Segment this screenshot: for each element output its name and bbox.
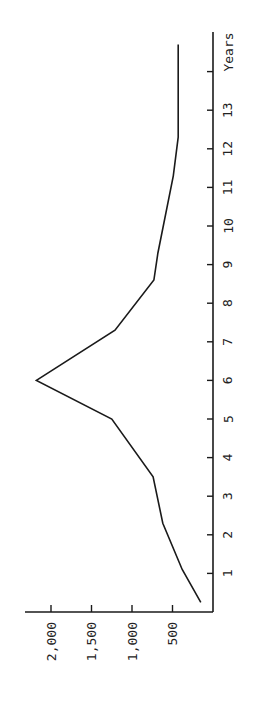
data-line bbox=[36, 45, 200, 603]
x-tick-label: 12 bbox=[221, 141, 236, 157]
y-tick-label: 2,000 bbox=[44, 622, 59, 661]
x-tick-label: 2 bbox=[221, 531, 236, 539]
x-tick-label: 9 bbox=[221, 261, 236, 269]
axis-ticks bbox=[51, 72, 213, 612]
x-tick-label: 4 bbox=[221, 454, 236, 462]
x-tick-label: 8 bbox=[221, 299, 236, 307]
x-tick-label: 3 bbox=[221, 492, 236, 500]
x-axis-label: Years bbox=[221, 32, 236, 71]
x-tick-label: 6 bbox=[221, 376, 236, 384]
x-tick-label: 7 bbox=[221, 338, 236, 346]
y-tick-label: 1,500 bbox=[84, 622, 99, 661]
rotated-line-chart: 123456789101112135001,0001,5002,000 Year… bbox=[0, 0, 265, 708]
x-tick-label: 11 bbox=[221, 180, 236, 196]
x-tick-label: 13 bbox=[221, 102, 236, 118]
tick-labels: 123456789101112135001,0001,5002,000 bbox=[44, 102, 236, 661]
chart-axes bbox=[25, 32, 213, 612]
x-tick-label: 1 bbox=[221, 569, 236, 577]
x-tick-label: 10 bbox=[221, 218, 236, 234]
y-tick-label: 1,000 bbox=[125, 622, 140, 661]
y-tick-label: 500 bbox=[165, 622, 180, 645]
x-tick-label: 5 bbox=[221, 415, 236, 423]
